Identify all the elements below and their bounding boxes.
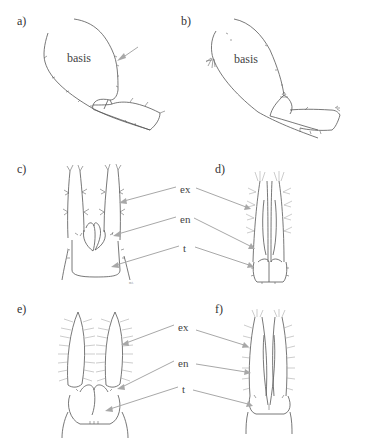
figure-drawings [0, 0, 372, 443]
appendage-drawing-c [62, 164, 179, 280]
limb-drawing-b [206, 19, 340, 138]
limb-drawing-a [44, 19, 165, 130]
appendage-drawing-d [194, 171, 292, 284]
appendage-drawing-f [193, 309, 295, 434]
appendage-drawing-e [58, 312, 178, 438]
